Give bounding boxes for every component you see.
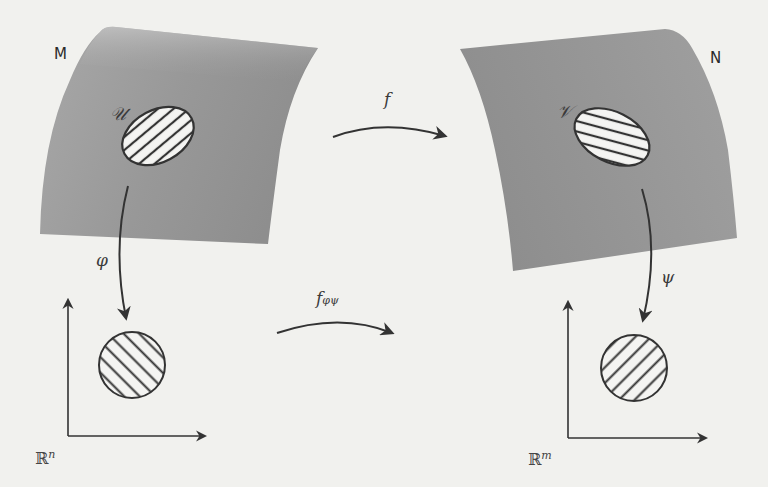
map-f-label: f: [384, 91, 390, 108]
map-psi-label: ψ: [661, 269, 674, 286]
manifold-M-label: M: [54, 47, 67, 62]
region-U-label: 𝒰: [110, 105, 126, 123]
manifold-N-label: N: [710, 51, 721, 66]
disk-Rm: [601, 335, 667, 401]
space-Rm-label: ℝm: [528, 450, 552, 468]
disk-Rn: [99, 332, 165, 398]
map-f-phi-psi-arrow: [277, 323, 392, 334]
map-phi-label: φ: [96, 252, 108, 269]
region-V-label: 𝒱: [557, 103, 572, 121]
map-f-arrow: [333, 127, 445, 137]
map-f-phi-psi-label: fφψ: [316, 290, 339, 307]
manifold-diagram: M N 𝒰 𝒱 f φ ψ fφψ ℝn ℝm: [0, 0, 768, 487]
space-Rn-exponent: n: [48, 448, 55, 461]
space-Rn-base: ℝ: [35, 449, 48, 468]
map-f-phi-psi-subscript: φψ: [322, 294, 338, 307]
space-Rm-exponent: m: [541, 449, 551, 462]
space-Rm-base: ℝ: [528, 450, 541, 469]
space-Rn-label: ℝn: [35, 449, 55, 467]
